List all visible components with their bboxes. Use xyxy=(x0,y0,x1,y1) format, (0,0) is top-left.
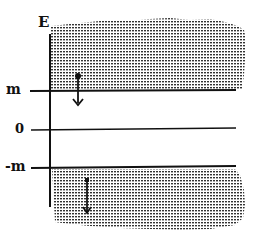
lower-continuum-region xyxy=(52,169,245,230)
level-label-zero: 0 xyxy=(15,122,24,135)
level-label-m: m xyxy=(6,82,21,96)
level-line-m xyxy=(30,90,236,91)
upper-continuum-region xyxy=(51,18,246,89)
level-line-zero xyxy=(31,128,236,130)
level-line-neg-m xyxy=(31,166,236,168)
energy-level-diagram: E m 0 -m xyxy=(0,0,260,242)
axis-label-e: E xyxy=(38,15,49,30)
level-label-neg-m: -m xyxy=(5,159,26,173)
